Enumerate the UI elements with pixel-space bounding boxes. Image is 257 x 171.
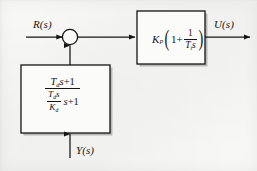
controller-integral-fraction: 1 Tis <box>184 28 198 50</box>
inner-derivative-time-subscript: d <box>53 94 56 100</box>
numerator-tail: +1 <box>64 76 75 87</box>
controller-gain-symbol: K <box>152 34 159 45</box>
control-output-label: U(s) <box>214 19 234 30</box>
derivative-gain-subscript: d <box>55 107 58 113</box>
controller-one-plus: 1+ <box>171 34 183 45</box>
laplace-variable: s <box>192 40 196 50</box>
derivative-time-subscript: d <box>56 81 59 88</box>
denominator-tail: s+1 <box>64 96 79 107</box>
reference-input-label: R(s) <box>33 19 52 30</box>
controller-transfer-function: Kp ( 1+ 1 Tis ) <box>152 28 204 50</box>
controller-fraction-numerator: 1 <box>187 28 195 38</box>
inner-laplace-variable: s <box>56 89 60 99</box>
feedback-inner-fraction: Tds Kd <box>47 90 62 113</box>
feedback-numerator: Tds+1 <box>49 76 76 87</box>
denominator-tail-constant: +1 <box>68 96 79 107</box>
inner-denominator: Kd <box>48 102 60 113</box>
inner-numerator: Tds <box>47 90 62 100</box>
summing-junction <box>62 29 77 44</box>
feedback-transfer-function: Tds+1 Tds Kd s+1 <box>45 76 80 113</box>
integral-time-subscript: i <box>190 45 192 51</box>
controller-fraction-denominator: Tis <box>184 40 198 50</box>
feedback-outer-fraction: Tds+1 Tds Kd s+1 <box>45 76 80 113</box>
measurement-input-label: Y(s) <box>76 145 94 156</box>
feedback-denominator: Tds Kd s+1 <box>45 89 80 113</box>
controller-gain-subscript: p <box>160 38 163 45</box>
